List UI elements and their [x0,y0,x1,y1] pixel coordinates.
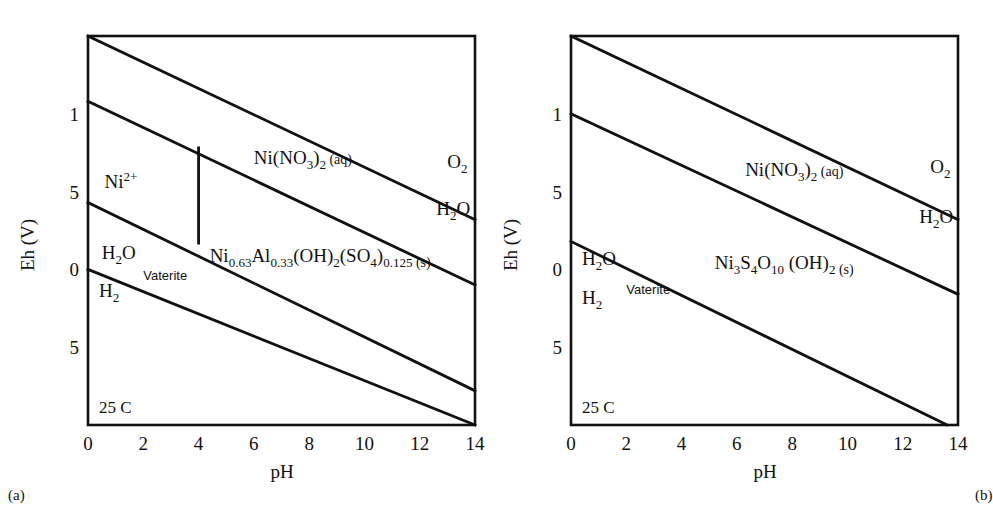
svg-text:2: 2 [622,433,632,454]
pourbaix-panel-b: Eh (V) 1 5 0 5 0 2 4 6 8 10 12 14 pH [483,0,965,525]
svg-text:5: 5 [553,337,563,358]
pourbaix-panel-a: Eh (V) 1 5 0 5 0 2 4 6 8 10 12 14 pH [0,0,482,525]
svg-text:1: 1 [70,104,80,125]
caption-panel-b: (b) [975,487,993,504]
annotation-vaterite-b: Vaterite [626,282,670,297]
svg-text:8: 8 [787,433,797,454]
svg-text:4: 4 [677,433,687,454]
svg-text:6: 6 [249,433,259,454]
caption-panel-a: (a) [8,487,25,504]
svg-text:0: 0 [70,259,80,280]
svg-text:6: 6 [732,433,742,454]
x-tick-labels-b: 0 2 4 6 8 10 12 14 [566,433,968,454]
svg-text:0: 0 [83,433,93,454]
annotation-temperature-b: 25 C [582,398,615,417]
panel-b-plot: Eh (V) 1 5 0 5 0 2 4 6 8 10 12 14 pH [483,0,965,525]
y-tick-labels-a: 1 5 0 5 [70,104,80,358]
svg-text:14: 14 [949,433,969,454]
svg-text:12: 12 [893,433,912,454]
plot-frame-b [571,36,958,425]
x-axis-title-a: pH [270,461,294,482]
annotation-temperature-a: 25 C [99,398,132,417]
svg-text:8: 8 [304,433,314,454]
svg-text:0: 0 [566,433,576,454]
annotation-vaterite-a: Vaterite [143,268,187,283]
x-axis-title-b: pH [753,461,777,482]
svg-text:5: 5 [70,337,80,358]
y-axis-title-a: Eh (V) [17,219,39,271]
svg-text:2: 2 [139,433,149,454]
svg-text:5: 5 [70,182,80,203]
svg-text:0: 0 [553,259,563,280]
x-tick-labels-a: 0 2 4 6 8 10 12 14 [83,433,485,454]
y-tick-labels-b: 1 5 0 5 [553,104,563,358]
y-axis-title-b: Eh (V) [500,219,522,271]
svg-text:12: 12 [410,433,429,454]
panel-a-plot: Eh (V) 1 5 0 5 0 2 4 6 8 10 12 14 pH [0,0,482,525]
svg-text:10: 10 [355,433,374,454]
svg-text:5: 5 [553,182,563,203]
svg-text:10: 10 [838,433,857,454]
svg-text:1: 1 [553,104,563,125]
svg-text:4: 4 [194,433,204,454]
